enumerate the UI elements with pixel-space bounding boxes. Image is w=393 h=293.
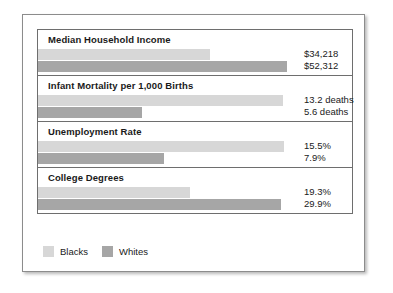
chart-legend: Blacks Whites [43, 246, 148, 257]
bar-whites [38, 199, 281, 210]
bars-area: 15.5% 7.9% [38, 141, 352, 167]
group-title: Infant Mortality per 1,000 Births [38, 76, 352, 95]
bar-track: 19.3% [38, 187, 352, 198]
bar-track: $34,218 [38, 49, 352, 60]
legend-item-blacks: Blacks [43, 246, 88, 257]
bar-blacks [38, 141, 284, 152]
bar-row: $52,312 [38, 61, 352, 72]
group-title: College Degrees [38, 168, 352, 187]
bars-area: 13.2 deaths 5.6 deaths [38, 95, 352, 121]
chart-group: College Degrees 19.3% 29.9% [38, 168, 352, 213]
comparison-chart-table: Median Household Income $34,218 $52,312 [37, 29, 353, 214]
bar-track: 29.9% [38, 199, 352, 210]
legend-label: Blacks [60, 246, 88, 257]
group-title: Median Household Income [38, 30, 352, 49]
bar-track: 5.6 deaths [38, 107, 352, 118]
bar-row: 29.9% [38, 199, 352, 210]
bar-value-label: 29.9% [304, 198, 331, 210]
bar-row: 7.9% [38, 153, 352, 164]
bar-value-label: 7.9% [304, 152, 326, 164]
bar-row: 5.6 deaths [38, 107, 352, 118]
bar-blacks [38, 95, 283, 106]
bars-area: $34,218 $52,312 [38, 49, 352, 75]
bar-blacks [38, 49, 210, 60]
bar-whites [38, 153, 164, 164]
legend-item-whites: Whites [102, 246, 148, 257]
bar-blacks [38, 187, 190, 198]
chart-group: Median Household Income $34,218 $52,312 [38, 30, 352, 76]
bar-track: 13.2 deaths [38, 95, 352, 106]
bar-value-label: $34,218 [304, 48, 338, 60]
bar-value-label: $52,312 [304, 60, 338, 72]
bar-whites [38, 107, 142, 118]
bar-row: 19.3% [38, 187, 352, 198]
chart-group: Unemployment Rate 15.5% 7.9% [38, 122, 352, 168]
bar-whites [38, 61, 287, 72]
bars-area: 19.3% 29.9% [38, 187, 352, 213]
bar-row: 15.5% [38, 141, 352, 152]
bar-row: 13.2 deaths [38, 95, 352, 106]
legend-swatch-icon [43, 246, 54, 257]
bar-value-label: 13.2 deaths [304, 94, 354, 106]
bar-track: $52,312 [38, 61, 352, 72]
bar-value-label: 19.3% [304, 186, 331, 198]
legend-label: Whites [119, 246, 148, 257]
bar-track: 7.9% [38, 153, 352, 164]
group-title: Unemployment Rate [38, 122, 352, 141]
figure-frame: Median Household Income $34,218 $52,312 [22, 14, 365, 272]
bar-row: $34,218 [38, 49, 352, 60]
bar-value-label: 15.5% [304, 140, 331, 152]
bar-value-label: 5.6 deaths [304, 106, 348, 118]
bar-track: 15.5% [38, 141, 352, 152]
chart-group: Infant Mortality per 1,000 Births 13.2 d… [38, 76, 352, 122]
legend-swatch-icon [102, 246, 113, 257]
